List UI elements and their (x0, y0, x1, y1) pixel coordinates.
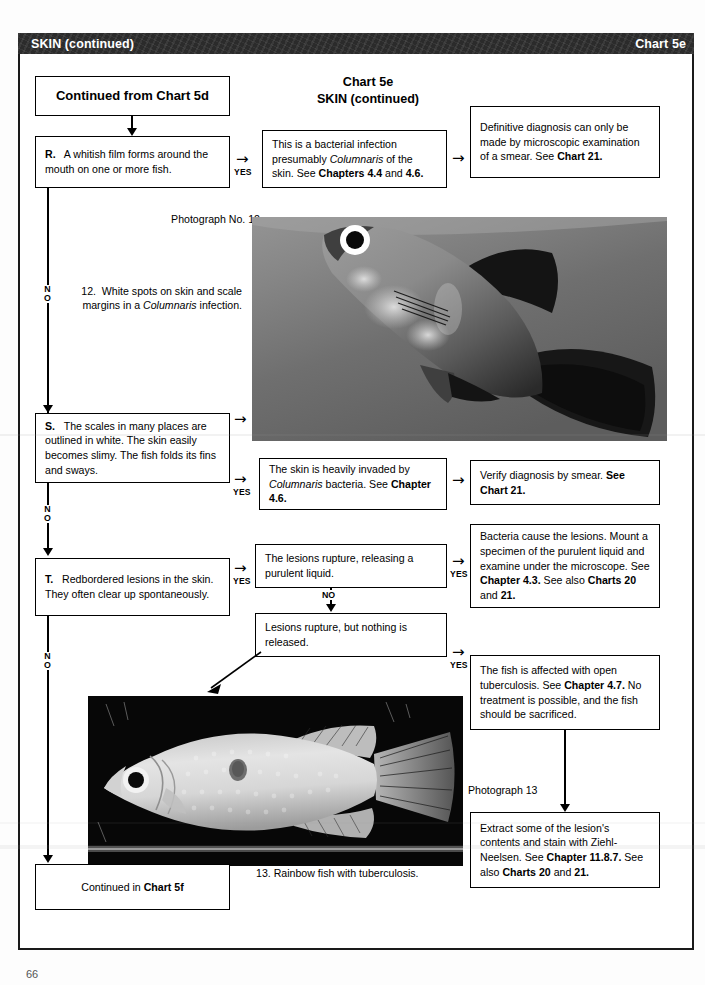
header-title: SKIN (continued) (31, 37, 134, 51)
photo13-fish-image (88, 696, 463, 866)
continued-from-text: Continued from Chart 5d (45, 87, 220, 105)
photo12-fish-image (252, 217, 667, 441)
box-question-r[interactable]: R. A whitish film forms around the mouth… (35, 136, 230, 188)
chart-title: Chart 5e SKIN (continued) (268, 74, 468, 108)
box-answer-t2[interactable]: Lesions rupture, but nothing is released… (255, 613, 447, 657)
header-chart-label: Chart 5e (635, 37, 686, 51)
yes-label-t: YES (233, 576, 251, 586)
photo13-label: Photograph 13 (468, 783, 608, 797)
chart-header-bar: SKIN (continued) Chart 5e (18, 33, 694, 54)
arrow-t-yes-icon: → (234, 561, 247, 576)
connector-t2-t3-arrowhead (560, 804, 570, 812)
arrow-t2-result-icon: → (452, 645, 465, 660)
no-label-r-o: O (43, 294, 52, 303)
result-t2-text: The fish is affected with open tuberculo… (480, 663, 650, 721)
arrow-s-photo-icon: → (234, 412, 247, 427)
connector-t-no-arrowhead (43, 855, 53, 863)
arrow-r-result-icon: → (452, 151, 465, 166)
box-result-s[interactable]: Verify diagnosis by smear. See Chart 21. (470, 460, 660, 505)
yes-label-r: YES (234, 167, 252, 177)
chart-page: SKIN (continued) Chart 5e Chart 5e SKIN … (0, 0, 705, 985)
yes-label-t1: YES (450, 569, 468, 579)
continued-in-text: Continued in Chart 5f (45, 880, 220, 895)
photo13-caption: 13. Rainbow fish with tuberculosis. (256, 866, 476, 880)
answer-s-text: The skin is heavily invaded by Columnari… (269, 462, 437, 506)
connector-t1-no-arrowhead (326, 604, 336, 612)
no-label-r: N O (43, 285, 52, 303)
connector-intro-arrowhead (127, 128, 137, 136)
no-label-s-o: O (43, 514, 52, 523)
answer-t2-text: Lesions rupture, but nothing is released… (265, 620, 437, 649)
result-t3-text: Extract some of the lesion's contents an… (480, 821, 650, 879)
chart-title-line1: Chart 5e (268, 74, 468, 91)
box-question-s[interactable]: S. The scales in many places are outline… (35, 413, 230, 483)
arrow-t1-result-icon: → (452, 554, 465, 569)
no-label-s: N O (43, 505, 52, 523)
photograph-13 (88, 696, 463, 866)
chart-title-line2: SKIN (continued) (268, 91, 468, 108)
box-result-t2[interactable]: The fish is affected with open tuberculo… (470, 655, 660, 730)
photo12-caption: 12. White spots on skin and scale margin… (72, 284, 242, 313)
box-result-t1[interactable]: Bacteria cause the lesions. Mount a spec… (470, 524, 660, 608)
question-s-text: S. The scales in many places are outline… (45, 419, 220, 477)
box-answer-s[interactable]: The skin is heavily invaded by Columnari… (259, 458, 447, 510)
result-t1-text: Bacteria cause the lesions. Mount a spec… (480, 529, 650, 602)
photograph-12 (252, 217, 667, 441)
result-r-text: Definitive diagnosis can only be made by… (480, 120, 650, 164)
arrow-r-yes-icon: → (236, 152, 249, 167)
box-continued-in[interactable]: Continued in Chart 5f (35, 864, 230, 910)
page-number: 66 (26, 968, 38, 980)
no-label-t1: NO (321, 590, 336, 600)
connector-r-no-arrowhead (43, 405, 53, 413)
answer-t1-text: The lesions rupture, releasing a purulen… (265, 551, 437, 580)
answer-r-text: This is a bacterial infection presumably… (272, 137, 437, 181)
box-result-r[interactable]: Definitive diagnosis can only be made by… (470, 106, 660, 178)
box-continued-from[interactable]: Continued from Chart 5d (35, 76, 230, 116)
question-t-text: T. Redbordered lesions in the skin. They… (45, 572, 220, 601)
arrow-s-result-icon: → (452, 473, 465, 488)
photo12-label: Photograph No. 12 (150, 212, 260, 226)
yes-label-s: YES (233, 487, 251, 497)
no-label-t-o: O (43, 661, 52, 670)
box-question-t[interactable]: T. Redbordered lesions in the skin. They… (35, 558, 230, 616)
connector-t2-photo-arrow (195, 650, 265, 700)
question-r-text: R. A whitish film forms around the mouth… (45, 147, 220, 176)
box-answer-r[interactable]: This is a bacterial infection presumably… (262, 130, 447, 188)
box-answer-t1[interactable]: The lesions rupture, releasing a purulen… (255, 544, 447, 588)
arrow-s-yes-icon: → (234, 472, 247, 487)
result-s-text: Verify diagnosis by smear. See Chart 21. (480, 468, 650, 497)
yes-label-t2: YES (450, 660, 468, 670)
connector-s-no-arrowhead (43, 548, 53, 556)
box-result-t3[interactable]: Extract some of the lesion's contents an… (470, 812, 660, 888)
no-label-t: N O (43, 652, 52, 670)
